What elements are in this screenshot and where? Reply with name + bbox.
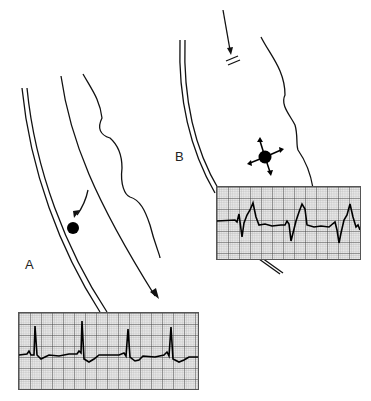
- wavy-line-b: [261, 37, 313, 188]
- wall-line-a-outer: [27, 88, 107, 312]
- panel-label-b: B: [175, 149, 184, 164]
- ecg-strip-a: [18, 312, 199, 390]
- block-arrow-icon: [227, 47, 233, 55]
- panel-label-a: A: [25, 257, 34, 272]
- diagram-canvas: B A: [0, 0, 371, 401]
- wall-line-a-inner: [22, 88, 100, 312]
- ectopic-focus-icon: [247, 137, 284, 176]
- lower-block-marker-icon: [259, 259, 280, 274]
- block-marker-icon: [226, 56, 238, 61]
- ecg-strip-b: [216, 186, 361, 260]
- impulse-dot-icon: [67, 222, 79, 234]
- branch-arrow-icon: [73, 210, 80, 218]
- pathway-line-a: [61, 76, 155, 296]
- wavy-line-a: [83, 74, 160, 258]
